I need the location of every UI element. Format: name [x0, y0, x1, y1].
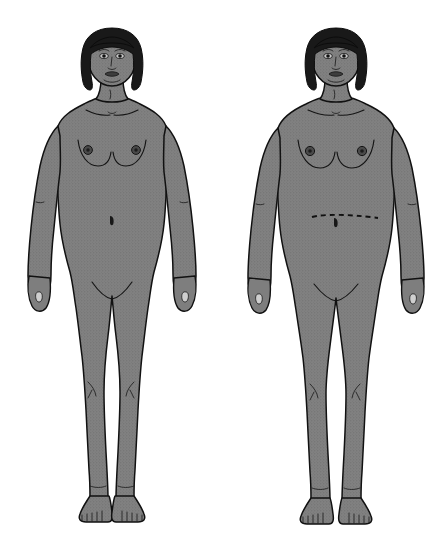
figure-right-panel	[224, 0, 448, 541]
arm-left	[28, 126, 60, 297]
foot-right	[339, 498, 372, 524]
pupil-right	[118, 54, 122, 58]
arm-left	[248, 128, 280, 299]
torso-and-legs	[55, 96, 170, 498]
figure-right-body	[248, 28, 424, 524]
figure-left-body	[28, 28, 196, 522]
nipple-left	[86, 148, 89, 151]
arm-right	[164, 126, 196, 297]
pupil-right	[342, 54, 346, 58]
foot-left	[79, 496, 112, 522]
thumbnail-right	[410, 294, 417, 304]
mouth	[329, 72, 343, 77]
foot-right	[112, 496, 145, 522]
figure-left-panel	[0, 0, 224, 541]
thumbnail-left	[36, 292, 43, 302]
pupil-left	[102, 54, 106, 58]
nipple-right	[360, 149, 364, 153]
figure-right-svg	[224, 0, 448, 541]
pupil-left	[326, 54, 330, 58]
arm-right	[392, 128, 424, 299]
nipple-left	[308, 149, 312, 153]
figure-plate	[0, 0, 448, 541]
nipple-right	[134, 148, 137, 151]
mouth	[105, 72, 119, 77]
foot-left	[300, 498, 333, 524]
thumbnail-left	[256, 294, 263, 304]
torso-and-legs	[275, 96, 398, 500]
figure-left-svg	[0, 0, 224, 541]
thumbnail-right	[182, 292, 189, 302]
